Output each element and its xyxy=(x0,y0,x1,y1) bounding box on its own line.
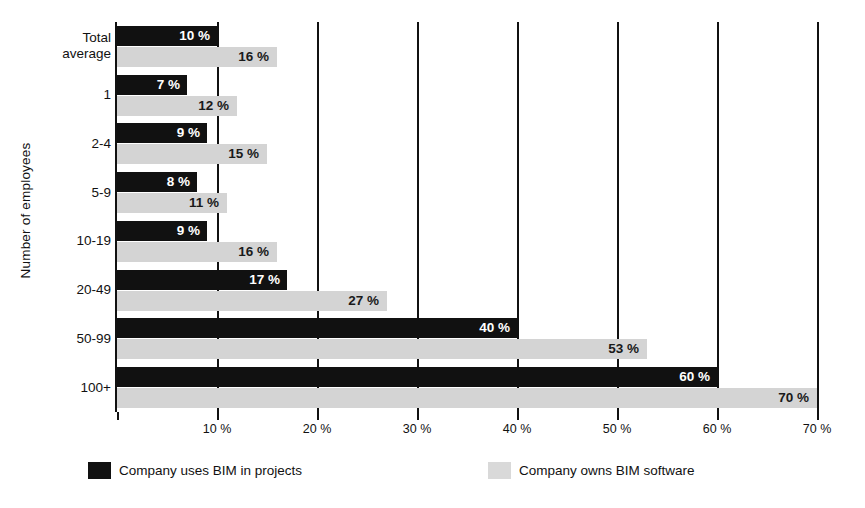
category-label-line: 2-4 xyxy=(33,136,111,152)
category-label: 10-19 xyxy=(33,233,111,249)
legend-item[interactable]: Company owns BIM software xyxy=(488,462,695,479)
x-tick-mark xyxy=(517,412,519,420)
category-label: 20-49 xyxy=(33,282,111,298)
x-tick-label: 20 % xyxy=(303,422,332,436)
legend-label: Company owns BIM software xyxy=(519,463,695,478)
category-label-line: 20-49 xyxy=(33,282,111,298)
category-label-line: 5-9 xyxy=(33,185,111,201)
bar-value-label: 9 % xyxy=(177,127,200,141)
chart-page: Number of employees Totalaverage12-45-91… xyxy=(0,0,865,508)
x-tick-label: 10 % xyxy=(203,422,232,436)
bar xyxy=(117,339,647,359)
x-tick-label: 30 % xyxy=(403,422,432,436)
bar-value-label: 7 % xyxy=(157,78,180,92)
bar-value-label: 60 % xyxy=(679,370,710,384)
chart-legend: Company uses BIM in projectsCompany owns… xyxy=(0,462,865,488)
category-label: 50-99 xyxy=(33,331,111,347)
bar xyxy=(117,388,817,408)
y-axis-title-text: Number of employees xyxy=(19,142,34,278)
x-tick-mark xyxy=(717,412,719,420)
gridline-60 xyxy=(717,22,719,412)
legend-swatch-light xyxy=(488,462,511,479)
bar-value-label: 9 % xyxy=(177,224,200,238)
category-label-line: 10-19 xyxy=(33,233,111,249)
bar-value-label: 53 % xyxy=(608,343,639,357)
x-tick-mark xyxy=(417,412,419,420)
bar-value-label: 70 % xyxy=(778,391,809,405)
category-label-line: 1 xyxy=(33,87,111,103)
category-label-column: Totalaverage12-45-910-1920-4950-99100+ xyxy=(36,22,115,412)
legend-item[interactable]: Company uses BIM in projects xyxy=(88,462,302,479)
gridline-70 xyxy=(817,22,819,412)
bar-value-label: 11 % xyxy=(189,196,219,210)
bar xyxy=(117,367,717,387)
bar-value-label: 15 % xyxy=(228,148,259,162)
legend-swatch-dark xyxy=(88,462,111,479)
category-label: Totalaverage xyxy=(33,30,111,62)
category-label-line: 50-99 xyxy=(33,331,111,347)
bar-value-label: 10 % xyxy=(179,29,210,43)
x-tick-mark xyxy=(317,412,319,420)
category-label: 1 xyxy=(33,87,111,103)
bar-value-label: 40 % xyxy=(479,322,510,336)
x-tick-mark xyxy=(617,412,619,420)
category-label-line: 100+ xyxy=(33,380,111,396)
x-tick-mark xyxy=(817,412,819,420)
bar-value-label: 17 % xyxy=(249,273,280,287)
bar-value-label: 8 % xyxy=(167,175,190,189)
category-label: 100+ xyxy=(33,380,111,396)
x-axis: 10 %20 %30 %40 %50 %60 %70 % xyxy=(117,412,817,446)
x-tick-mark xyxy=(217,412,219,420)
category-label: 5-9 xyxy=(33,185,111,201)
x-tick-label: 70 % xyxy=(803,422,832,436)
x-tick-label: 50 % xyxy=(603,422,632,436)
bar-value-label: 27 % xyxy=(348,294,379,308)
bar xyxy=(117,291,387,311)
plot-area: 10 %16 %7 %12 %9 %15 %8 %11 %9 %16 %17 %… xyxy=(117,22,817,412)
legend-label: Company uses BIM in projects xyxy=(119,463,302,478)
category-label: 2-4 xyxy=(33,136,111,152)
bar-value-label: 16 % xyxy=(238,245,269,259)
category-label-line: average xyxy=(33,46,111,62)
category-label-line: Total xyxy=(33,30,111,46)
x-tick-label: 40 % xyxy=(503,422,532,436)
bar xyxy=(117,318,517,338)
bar-value-label: 16 % xyxy=(238,50,269,64)
x-tick-mark xyxy=(117,412,119,420)
x-tick-label: 60 % xyxy=(703,422,732,436)
bar-value-label: 12 % xyxy=(198,99,229,113)
